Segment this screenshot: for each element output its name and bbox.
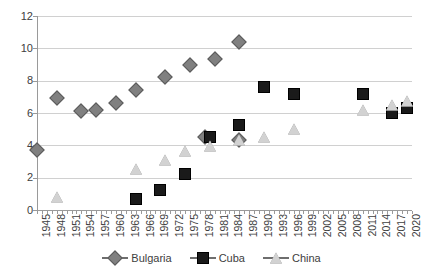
triangle-icon xyxy=(263,252,289,264)
legend-item-cuba[interactable]: Cuba xyxy=(190,252,245,264)
data-point-cuba-1991 xyxy=(258,81,270,93)
x-tick-label-1945: 1945 xyxy=(41,214,52,237)
data-point-china-2011 xyxy=(357,104,369,115)
x-tick-label-2011: 2011 xyxy=(367,214,378,237)
data-point-china-1965 xyxy=(130,163,142,174)
data-point-china-1980 xyxy=(204,141,216,152)
x-tick-label-1981: 1981 xyxy=(219,214,230,237)
x-tick-mark-1972 xyxy=(170,211,171,214)
x-tick-label-2017: 2017 xyxy=(396,214,407,237)
x-tick-label-1990: 1990 xyxy=(263,214,274,237)
data-point-cuba-2011 xyxy=(357,88,369,100)
x-tick-mark-1957 xyxy=(96,211,97,214)
x-tick-label-1966: 1966 xyxy=(145,214,156,237)
x-tick-label-2014: 2014 xyxy=(381,214,392,237)
x-tick-label-1951: 1951 xyxy=(71,214,82,237)
data-point-china-1997 xyxy=(288,124,300,135)
data-point-china-2020 xyxy=(401,95,413,106)
data-point-china-1986 xyxy=(233,135,245,146)
x-tick-mark-1960 xyxy=(111,211,112,214)
x-tick-label-1957: 1957 xyxy=(100,214,111,237)
data-point-cuba-1986 xyxy=(233,119,245,131)
x-tick-label-1978: 1978 xyxy=(204,214,215,237)
x-tick-label-1948: 1948 xyxy=(56,214,67,237)
data-point-china-2017 xyxy=(386,99,398,110)
x-tick-label-1996: 1996 xyxy=(293,214,304,237)
diamond-icon xyxy=(102,252,128,264)
data-point-cuba-1970 xyxy=(154,184,166,196)
x-tick-label-1993: 1993 xyxy=(278,214,289,237)
x-tick-mark-1990 xyxy=(259,211,260,214)
legend-label-cuba: Cuba xyxy=(219,252,245,264)
x-tick-label-1999: 1999 xyxy=(307,214,318,237)
data-point-cuba-1997 xyxy=(288,88,300,100)
x-tick-mark-2005 xyxy=(333,211,334,214)
x-tick-label-2005: 2005 xyxy=(337,214,348,237)
x-tick-mark-2002 xyxy=(318,211,319,214)
x-tick-label-1963: 1963 xyxy=(130,214,141,237)
x-tick-label-1975: 1975 xyxy=(189,214,200,237)
x-tick-label-2020: 2020 xyxy=(411,214,422,237)
x-tick-label-1960: 1960 xyxy=(115,214,126,237)
data-point-cuba-1975 xyxy=(179,168,191,180)
square-icon xyxy=(190,252,216,264)
x-tick-label-2008: 2008 xyxy=(352,214,363,237)
data-point-china-1949 xyxy=(51,192,63,203)
scatter-chart: 024681012 194519481951195419571960196319… xyxy=(0,0,423,280)
legend-label-bulgaria: Bulgaria xyxy=(131,252,171,264)
x-tick-mark-2017 xyxy=(392,211,393,214)
x-tick-mark-2020 xyxy=(407,211,408,214)
x-tick-mark-1975 xyxy=(185,211,186,214)
x-tick-label-1984: 1984 xyxy=(233,214,244,237)
legend-item-bulgaria[interactable]: Bulgaria xyxy=(102,252,171,264)
x-tick-label-1969: 1969 xyxy=(159,214,170,237)
legend-item-china[interactable]: China xyxy=(263,252,321,264)
x-tick-label-1987: 1987 xyxy=(248,214,259,237)
data-point-china-1971 xyxy=(159,154,171,165)
x-tick-mark-1987 xyxy=(244,211,245,214)
x-tick-label-1972: 1972 xyxy=(174,214,185,237)
data-point-china-1991 xyxy=(258,132,270,143)
data-point-china-1975 xyxy=(179,145,191,156)
data-point-cuba-1965 xyxy=(130,193,142,205)
x-tick-mark-1945 xyxy=(37,211,38,214)
chart-legend: BulgariaCubaChina xyxy=(0,252,423,264)
x-tick-label-1954: 1954 xyxy=(85,214,96,237)
legend-label-china: China xyxy=(292,252,321,264)
x-tick-label-2002: 2002 xyxy=(322,214,333,237)
